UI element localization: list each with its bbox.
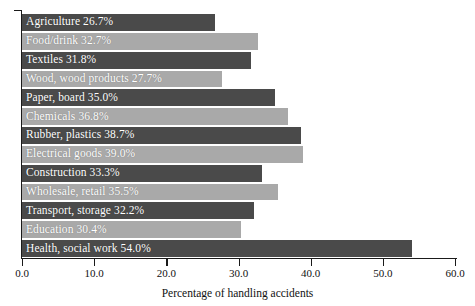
x-axis-tick-label: 10.0 xyxy=(85,267,104,279)
bar-row: Construction 33.3% xyxy=(22,164,455,183)
bar-row: Wood, wood products 27.7% xyxy=(22,70,455,89)
bar-label: Education 30.4% xyxy=(26,224,107,236)
y-axis-top-tick xyxy=(14,10,22,11)
x-axis-tick xyxy=(239,259,240,266)
x-axis-tick-label: 20.0 xyxy=(157,267,176,279)
x-axis-tick-label: 50.0 xyxy=(373,267,392,279)
plot-area: Agriculture 26.7%Food/drink 32.7%Textile… xyxy=(22,13,455,258)
x-axis-tick xyxy=(94,259,95,266)
bar-row: Transport, storage 32.2% xyxy=(22,201,455,220)
bar-label: Construction 33.3% xyxy=(26,167,120,179)
x-axis-tick-label: 60.0 xyxy=(445,267,464,279)
bar-label: Health, social work 54.0% xyxy=(26,243,151,255)
bar-row: Rubber, plastics 38.7% xyxy=(22,126,455,145)
bar-row: Agriculture 26.7% xyxy=(22,13,455,32)
bar-label: Electrical goods 39.0% xyxy=(26,149,135,161)
bar-label: Paper, board 35.0% xyxy=(26,92,118,104)
bar-row: Paper, board 35.0% xyxy=(22,88,455,107)
bar-label: Wood, wood products 27.7% xyxy=(26,73,162,85)
x-axis-title: Percentage of handling accidents xyxy=(0,287,475,299)
x-axis-tick xyxy=(22,259,23,266)
bar-row: Health, social work 54.0% xyxy=(22,239,455,258)
bar-label: Wholesale, retail 35.5% xyxy=(26,186,139,198)
x-axis-tick xyxy=(311,259,312,266)
bar-row: Chemicals 36.8% xyxy=(22,107,455,126)
bar-row: Education 30.4% xyxy=(22,220,455,239)
x-axis-tick xyxy=(383,259,384,266)
bar-row: Food/drink 32.7% xyxy=(22,32,455,51)
bar-label: Food/drink 32.7% xyxy=(26,36,111,48)
bar-label: Chemicals 36.8% xyxy=(26,111,109,123)
bar-row: Electrical goods 39.0% xyxy=(22,145,455,164)
bar-row: Textiles 31.8% xyxy=(22,51,455,70)
x-axis-tick xyxy=(455,259,456,266)
x-axis-tick-label: 40.0 xyxy=(301,267,320,279)
y-axis-line xyxy=(21,10,22,259)
bar-row: Wholesale, retail 35.5% xyxy=(22,183,455,202)
bar-label: Transport, storage 32.2% xyxy=(26,205,144,217)
bar-label: Agriculture 26.7% xyxy=(26,17,113,29)
x-axis-tick xyxy=(166,259,167,266)
bar-label: Rubber, plastics 38.7% xyxy=(26,130,134,142)
x-axis-tick-label: 0.0 xyxy=(15,267,29,279)
bar-chart: Agriculture 26.7%Food/drink 32.7%Textile… xyxy=(0,0,475,306)
bar-label: Textiles 31.8% xyxy=(26,54,96,66)
x-axis-tick-label: 30.0 xyxy=(229,267,248,279)
